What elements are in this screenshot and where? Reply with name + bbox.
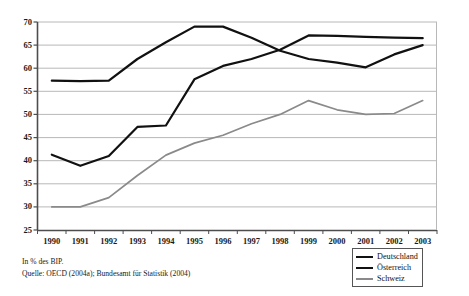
y-axis-tick-label: 40 xyxy=(8,155,32,165)
legend-item-label: Deutschland xyxy=(377,252,418,261)
footnotes: In % des BIP. Quelle: OECD (2004a); Bund… xyxy=(22,256,190,279)
legend-item[interactable]: Schweiz xyxy=(356,273,418,284)
source-note: Quelle: OECD (2004a); Bundesamt für Stat… xyxy=(22,268,190,280)
y-axis-tick-label: 65 xyxy=(8,40,32,50)
y-axis-tick-label: 50 xyxy=(8,109,32,119)
series-line-sterreich xyxy=(52,35,423,165)
y-axis-tick-label: 30 xyxy=(8,201,32,211)
legend-item-label: Österreich xyxy=(377,263,411,272)
y-axis-tick-label: 45 xyxy=(8,132,32,142)
y-axis-tick-label: 35 xyxy=(8,178,32,188)
legend-item[interactable]: Deutschland xyxy=(356,251,418,262)
chart-legend: DeutschlandÖsterreichSchweiz xyxy=(352,248,423,287)
legend-item[interactable]: Österreich xyxy=(356,262,418,273)
y-axis-tick-label: 60 xyxy=(8,63,32,73)
y-axis-tick-label: 70 xyxy=(8,17,32,27)
chart-figure: 70656055504540353025 1990199119921993199… xyxy=(0,0,469,296)
y-axis-tick-label: 55 xyxy=(8,86,32,96)
legend-swatch-icon xyxy=(356,256,373,258)
gridlines-group xyxy=(34,22,438,230)
y-axis-tick-label: 25 xyxy=(8,225,32,235)
series-line-schweiz xyxy=(52,101,423,207)
legend-item-label: Schweiz xyxy=(377,274,405,283)
legend-swatch-icon xyxy=(356,267,373,269)
unit-note: In % des BIP. xyxy=(22,256,190,268)
x-axis-tick-label: 2003 xyxy=(405,236,441,246)
series-line-deutschland xyxy=(52,27,423,82)
legend-swatch-icon xyxy=(356,278,373,280)
data-series-group xyxy=(52,27,423,207)
